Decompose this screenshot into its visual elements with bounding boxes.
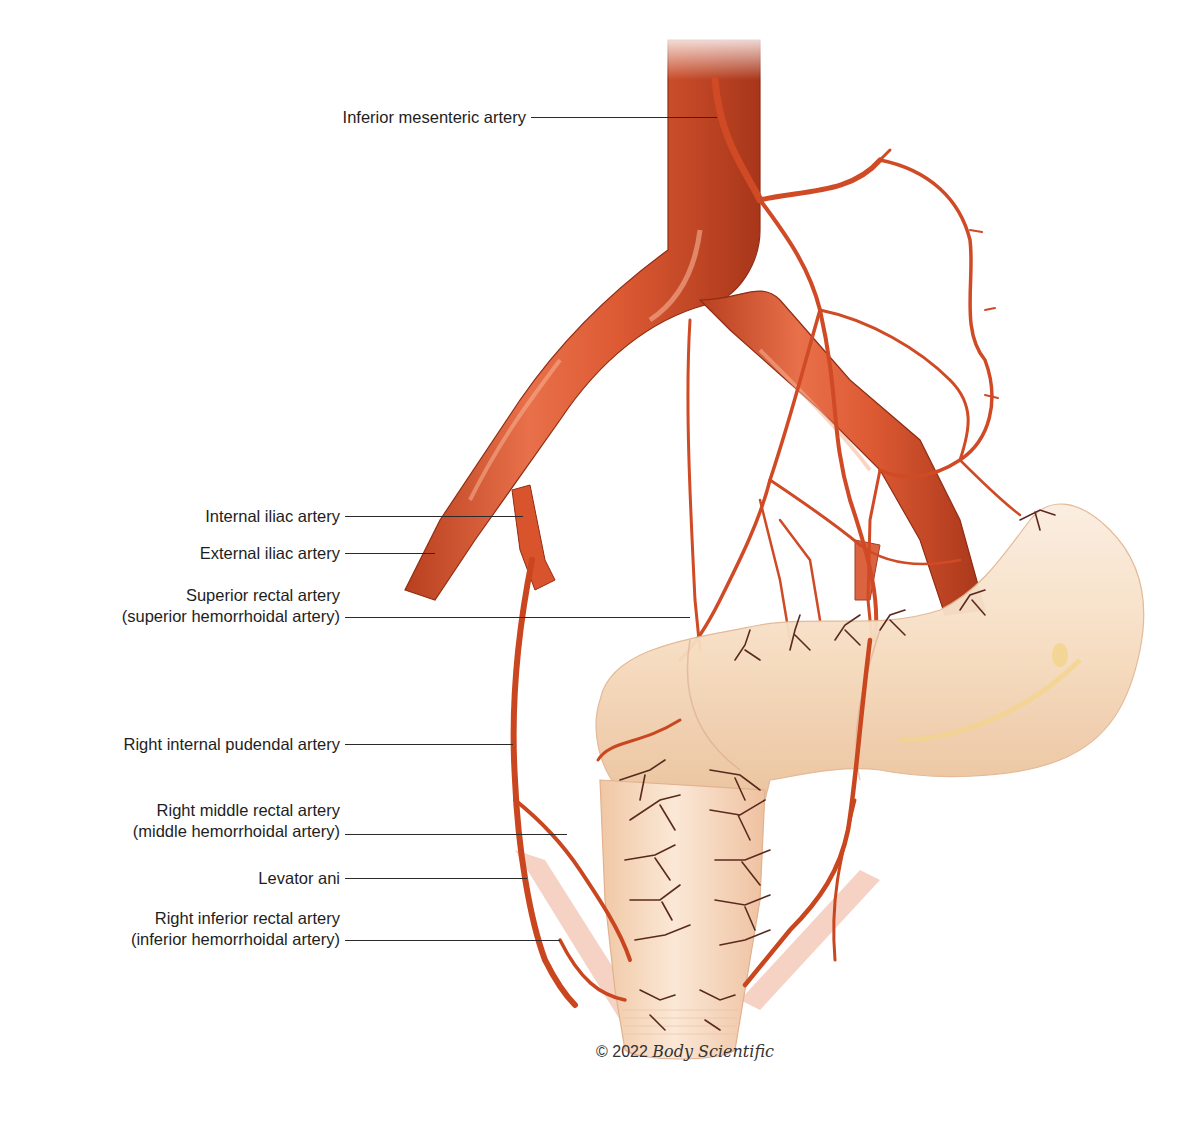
- label-external-iliac-artery: External iliac artery: [200, 543, 340, 564]
- label-superior-rectal-artery: Superior rectal artery (superior hemorrh…: [122, 585, 340, 627]
- leader-right-internal-pudendal-artery: [345, 744, 513, 745]
- leader-external-iliac-artery: [345, 553, 435, 554]
- label-internal-iliac-artery: Internal iliac artery: [205, 506, 340, 527]
- anatomy-illustration: [0, 0, 1196, 1128]
- copyright-notice: © 2022 Body Scientific: [596, 1042, 774, 1061]
- label-right-internal-pudendal-artery: Right internal pudendal artery: [124, 734, 340, 755]
- label-inferior-mesenteric-artery: Inferior mesenteric artery: [343, 107, 526, 128]
- copyright-brand: Body Scientific: [652, 1042, 774, 1061]
- leader-right-middle-rectal-artery: [345, 834, 567, 835]
- leader-internal-iliac-artery: [345, 516, 523, 517]
- rectum: [600, 780, 765, 1059]
- leader-superior-rectal-artery: [345, 617, 690, 618]
- leader-inferior-mesenteric-artery: [531, 117, 717, 118]
- leader-levator-ani: [345, 878, 527, 879]
- leader-right-inferior-rectal-artery: [345, 940, 560, 941]
- label-right-inferior-rectal-artery: Right inferior rectal artery (inferior h…: [131, 908, 340, 950]
- label-levator-ani: Levator ani: [258, 868, 340, 889]
- label-right-middle-rectal-artery: Right middle rectal artery (middle hemor…: [133, 800, 340, 842]
- copyright-year: © 2022: [596, 1043, 648, 1060]
